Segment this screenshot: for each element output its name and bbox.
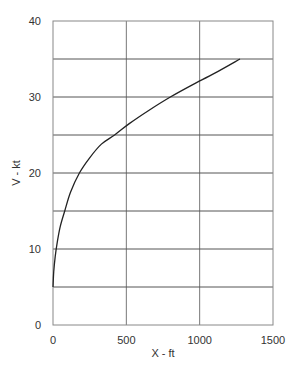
y-tick-label: 10 [29, 243, 41, 255]
x-tick-label: 500 [117, 334, 135, 346]
y-axis-label: V - kt [10, 160, 22, 186]
x-tick-label: 1000 [187, 334, 211, 346]
x-tick-label: 1500 [261, 334, 285, 346]
x-tick-labels: 050010001500 [50, 334, 285, 346]
y-tick-label: 0 [35, 319, 41, 331]
x-tick-label: 0 [50, 334, 56, 346]
y-tick-labels: 010203040 [29, 15, 41, 331]
chart: 050010001500 010203040 X - ft V - kt [0, 0, 297, 369]
y-tick-label: 40 [29, 15, 41, 27]
y-tick-label: 20 [29, 167, 41, 179]
y-tick-label: 30 [29, 91, 41, 103]
x-axis-label: X - ft [151, 347, 174, 359]
grid [53, 21, 273, 325]
